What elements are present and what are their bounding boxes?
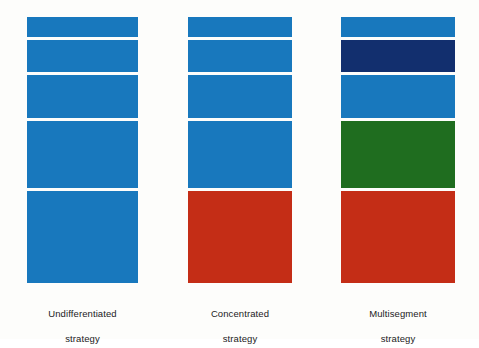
caption-line-1: Undifferentiated [27, 308, 138, 321]
market-segment-5-undifferentiated [27, 191, 138, 283]
market-segment-3-concentrated [188, 75, 292, 118]
strategy-column-undifferentiated [27, 17, 138, 283]
strategy-column-multisegment [341, 17, 455, 283]
strategy-column-concentrated [188, 17, 292, 283]
market-segment-4-concentrated [188, 121, 292, 188]
column-caption-concentrated: Concentrated strategy [188, 295, 292, 348]
market-segment-1-undifferentiated [27, 17, 138, 37]
market-segment-4-undifferentiated [27, 121, 138, 188]
caption-line-2: strategy [188, 333, 292, 346]
market-segment-5-concentrated [188, 191, 292, 283]
market-segment-5-multisegment [341, 191, 455, 283]
market-segment-2-concentrated [188, 40, 292, 72]
caption-line-2: strategy [27, 333, 138, 346]
market-segment-2-multisegment [341, 40, 455, 72]
caption-line-2: strategy [341, 333, 455, 346]
market-segment-2-undifferentiated [27, 40, 138, 72]
column-caption-multisegment: Multisegment strategy [341, 295, 455, 348]
market-segment-1-multisegment [341, 17, 455, 37]
market-segment-1-concentrated [188, 17, 292, 37]
caption-line-1: Concentrated [188, 308, 292, 321]
market-segment-3-undifferentiated [27, 75, 138, 118]
column-caption-undifferentiated: Undifferentiated strategy [27, 295, 138, 348]
market-segment-4-multisegment [341, 121, 455, 188]
market-segment-3-multisegment [341, 75, 455, 118]
caption-line-1: Multisegment [341, 308, 455, 321]
